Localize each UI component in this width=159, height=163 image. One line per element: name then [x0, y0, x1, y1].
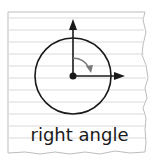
right-angle-diagram: right angle: [0, 0, 159, 163]
diagram-label: right angle: [0, 124, 159, 145]
center-point: [70, 73, 77, 80]
